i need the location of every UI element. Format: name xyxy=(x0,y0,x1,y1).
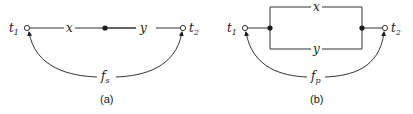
terminal-label-t2: t2 xyxy=(189,21,199,37)
junction-node-left xyxy=(267,25,272,30)
diagram-canvas: x y t1 t2 fs (a) x y xyxy=(0,0,413,114)
arc-right-to-t2 xyxy=(116,32,182,77)
series-diagram: x y t1 t2 fs (a) xyxy=(9,21,199,105)
caption-a: (a) xyxy=(100,93,113,105)
arc-label-fp: fp xyxy=(310,69,321,85)
terminal-label-t1: t1 xyxy=(227,21,237,37)
terminal-node-t1 xyxy=(24,25,29,30)
caption-b: (b) xyxy=(310,93,323,105)
terminal-label-t1: t1 xyxy=(9,21,19,37)
edge-label-y: y xyxy=(139,21,147,35)
terminal-node-t2 xyxy=(382,25,387,30)
terminal-label-t2: t2 xyxy=(391,21,401,37)
arc-left-to-t1 xyxy=(246,32,307,77)
edge-label-x: x xyxy=(313,0,320,14)
arc-left-to-t1 xyxy=(29,32,97,77)
junction-node-right xyxy=(359,25,364,30)
arc-right-to-t2 xyxy=(325,32,384,77)
internal-node xyxy=(102,25,107,30)
arc-label-fs: fs xyxy=(100,69,110,85)
edge-label-y: y xyxy=(312,42,320,56)
edge-label-x: x xyxy=(66,21,73,35)
terminal-node-t2 xyxy=(180,25,185,30)
parallel-diagram: x y t1 t2 fp (b) xyxy=(227,0,401,105)
terminal-node-t1 xyxy=(242,25,247,30)
